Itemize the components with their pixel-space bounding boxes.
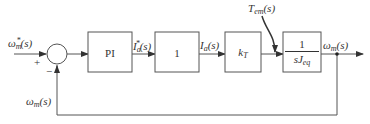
summing-junction [47,44,67,64]
pi-block-label: PI [88,48,132,59]
plus-sign: + [34,57,40,68]
plant-block-label: 1 sJeq [283,38,321,69]
unity-block-label: 1 [155,48,199,59]
input-label: ωm*(s) [8,37,32,51]
kt-block-label: kT [225,47,261,60]
ia-ref-label: Ia*(s) [133,40,151,54]
minus-sign: − [46,66,52,77]
disturbance-label: Tem(s) [248,3,275,16]
ia-label: Ia(s) [200,40,219,53]
feedback-label: ωm(s) [26,96,51,109]
output-label: ωm(s) [323,40,348,53]
disturbance-arrow [262,16,275,52]
